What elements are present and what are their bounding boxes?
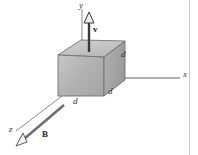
physics-figure: y x z v B d d d (0, 0, 198, 155)
cube-shape (58, 40, 125, 96)
cube-edge-label-right: d (121, 50, 126, 59)
figure-right-border (189, 0, 190, 155)
magnetic-field-vector-label: B (42, 130, 48, 139)
figure-canvas (0, 0, 198, 155)
cube-edge-label-bottom-front: d (73, 97, 78, 106)
y-axis-label: y (79, 1, 83, 10)
magnetic-field-vector-head (16, 133, 27, 146)
x-axis-label: x (183, 70, 187, 79)
velocity-vector-label: v (93, 25, 98, 34)
velocity-vector-head (84, 12, 94, 23)
cube-front-face (58, 55, 104, 96)
cube-edge-label-bottom-right: d (108, 87, 113, 96)
z-axis-label: z (9, 125, 13, 134)
